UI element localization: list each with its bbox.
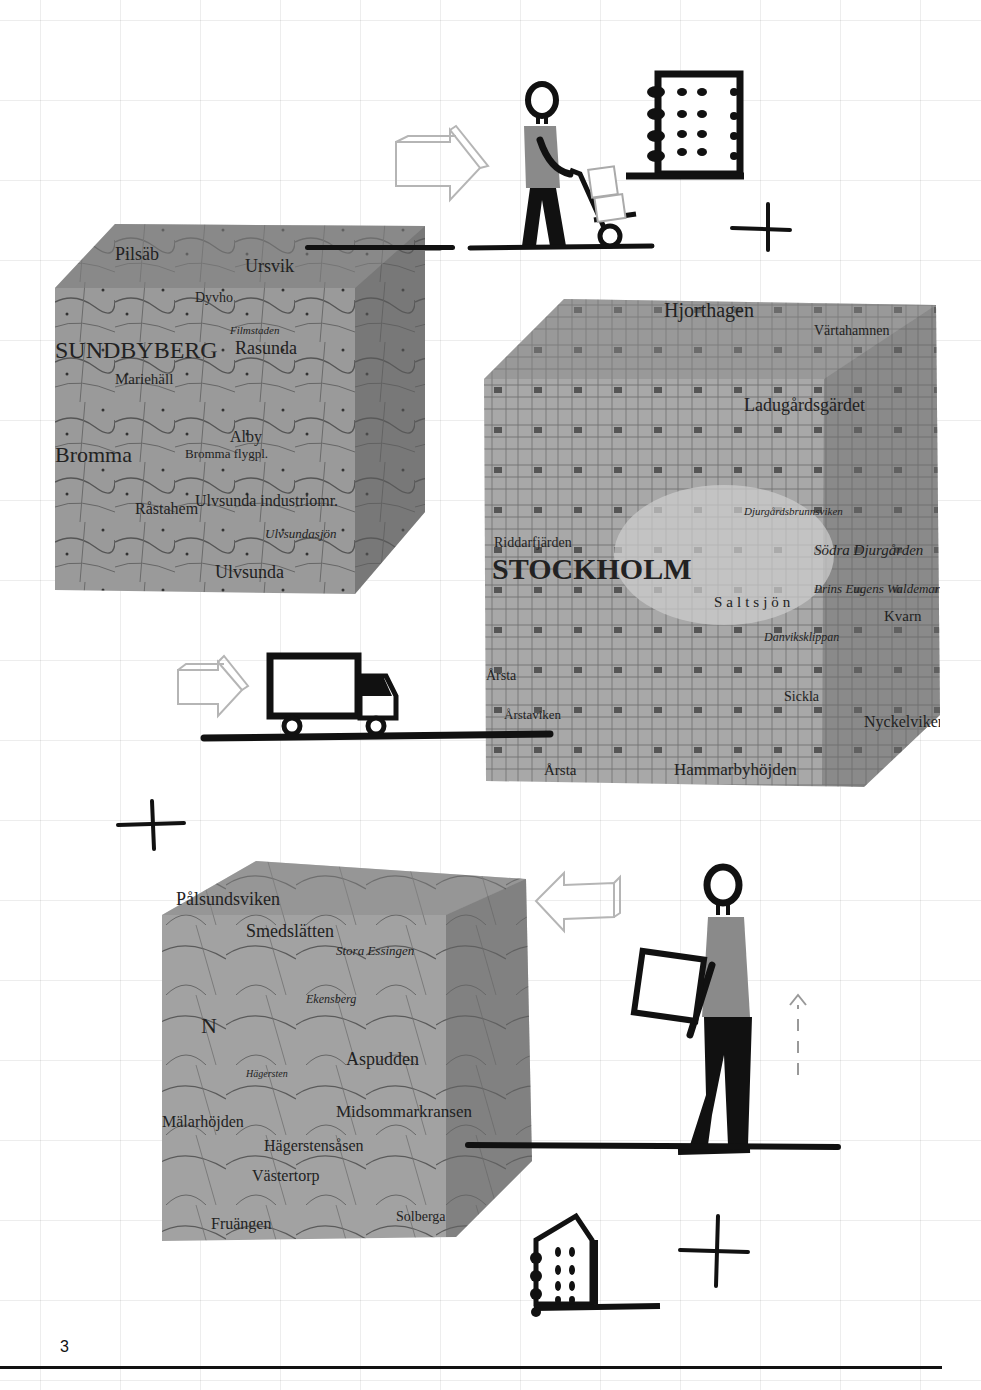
svg-text:STOCKHOLM: STOCKHOLM xyxy=(492,552,691,585)
svg-text:Årsta: Årsta xyxy=(544,762,577,778)
svg-text:Sickla: Sickla xyxy=(784,689,820,704)
svg-text:Hägersten: Hägersten xyxy=(245,1068,288,1079)
svg-text:Riddarfjärden: Riddarfjärden xyxy=(494,535,572,550)
plus-mark-icon xyxy=(680,1216,748,1286)
svg-text:Smedslätten: Smedslätten xyxy=(246,921,334,941)
svg-text:Ulvsundasjön: Ulvsundasjön xyxy=(265,526,337,541)
arrow-right-icon xyxy=(178,656,248,716)
svg-text:Mariehäll: Mariehäll xyxy=(115,371,173,387)
svg-text:Hägerstensåsen: Hägerstensåsen xyxy=(264,1137,364,1155)
svg-text:Pålsundsviken: Pålsundsviken xyxy=(176,889,280,909)
svg-text:Pilsäb: Pilsäb xyxy=(115,244,159,264)
bottom-building-scene xyxy=(510,1210,760,1320)
ground-line xyxy=(204,734,550,738)
arrow-left-icon xyxy=(536,873,620,931)
box-lifter-scene xyxy=(460,855,860,1160)
svg-text:Hjorthagen: Hjorthagen xyxy=(664,299,754,322)
svg-text:Rasunda: Rasunda xyxy=(235,338,297,358)
svg-text:Västertorp: Västertorp xyxy=(252,1167,320,1185)
plus-mark-icon xyxy=(732,204,790,250)
svg-text:Ulvsunda: Ulvsunda xyxy=(215,562,284,582)
svg-text:Nyckelviken: Nyckelviken xyxy=(864,713,940,731)
worker-figure xyxy=(522,84,570,246)
svg-text:Södra Djurgården: Södra Djurgården xyxy=(814,542,923,558)
svg-text:SUNDBYBERG: SUNDBYBERG xyxy=(55,337,218,363)
svg-text:Ursvik: Ursvik xyxy=(245,256,294,276)
svg-text:Fruängen: Fruängen xyxy=(211,1215,271,1233)
svg-text:Solberga: Solberga xyxy=(396,1209,446,1224)
svg-text:Mälarhöjden: Mälarhöjden xyxy=(162,1113,244,1131)
page-number: 3 xyxy=(60,1338,69,1356)
svg-text:Alby: Alby xyxy=(230,428,262,446)
svg-text:Dyvho: Dyvho xyxy=(195,290,233,305)
dashed-up-arrow-icon xyxy=(790,995,806,1075)
map-cube-bromma: Pilsäb Ursvik Dyvho SUNDBYBERG Mariehäll… xyxy=(55,222,425,602)
svg-text:Danviksklippan: Danviksklippan xyxy=(763,630,839,644)
svg-text:Kvarn: Kvarn xyxy=(884,608,922,624)
building-icon xyxy=(530,1216,660,1317)
ground-line xyxy=(468,1145,838,1147)
svg-text:Ladugårdsgärdet: Ladugårdsgärdet xyxy=(744,395,865,415)
plus-mark-icon xyxy=(112,795,192,855)
svg-text:Hammarbyhöjden: Hammarbyhöjden xyxy=(674,760,797,779)
svg-text:Bromma: Bromma xyxy=(55,442,132,467)
footer-rule xyxy=(0,1366,942,1369)
svg-text:Ekensberg: Ekensberg xyxy=(305,992,356,1006)
arrow-right-icon xyxy=(396,126,488,200)
svg-text:Aspudden: Aspudden xyxy=(346,1049,419,1069)
svg-text:Midsommarkransen: Midsommarkransen xyxy=(336,1102,472,1121)
truck-scene xyxy=(170,640,560,750)
trolley-scene xyxy=(390,70,810,260)
svg-text:Stora Essingen: Stora Essingen xyxy=(336,943,414,958)
svg-text:N: N xyxy=(201,1013,217,1038)
svg-text:Filmstaden: Filmstaden xyxy=(229,324,280,336)
svg-text:Ulvsunda industriomr.: Ulvsunda industriomr. xyxy=(195,492,338,509)
building-icon xyxy=(626,74,744,176)
box-icon xyxy=(634,951,704,1021)
svg-text:Bromma flygpl.: Bromma flygpl. xyxy=(185,446,268,461)
svg-text:Djurgårdsbrunnsviken: Djurgårdsbrunnsviken xyxy=(743,505,843,517)
svg-text:Saltsjön: Saltsjön xyxy=(714,594,794,610)
ground-line xyxy=(305,245,455,250)
svg-text:Värtahamnen: Värtahamnen xyxy=(814,323,889,338)
truck-icon xyxy=(270,656,396,734)
svg-text:Råstahem: Råstahem xyxy=(135,500,199,517)
svg-text:Prins Eugens Waldemarsudde: Prins Eugens Waldemarsudde xyxy=(813,581,940,596)
